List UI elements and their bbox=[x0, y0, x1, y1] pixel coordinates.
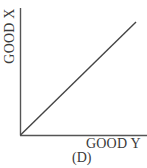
y-axis-label: GOOD X bbox=[3, 8, 17, 64]
diagram: GOOD X GOOD Y (D) bbox=[0, 0, 147, 168]
x-axis-label: GOOD Y bbox=[86, 137, 141, 151]
data-line bbox=[21, 22, 137, 135]
figure-caption: (D) bbox=[72, 151, 91, 165]
